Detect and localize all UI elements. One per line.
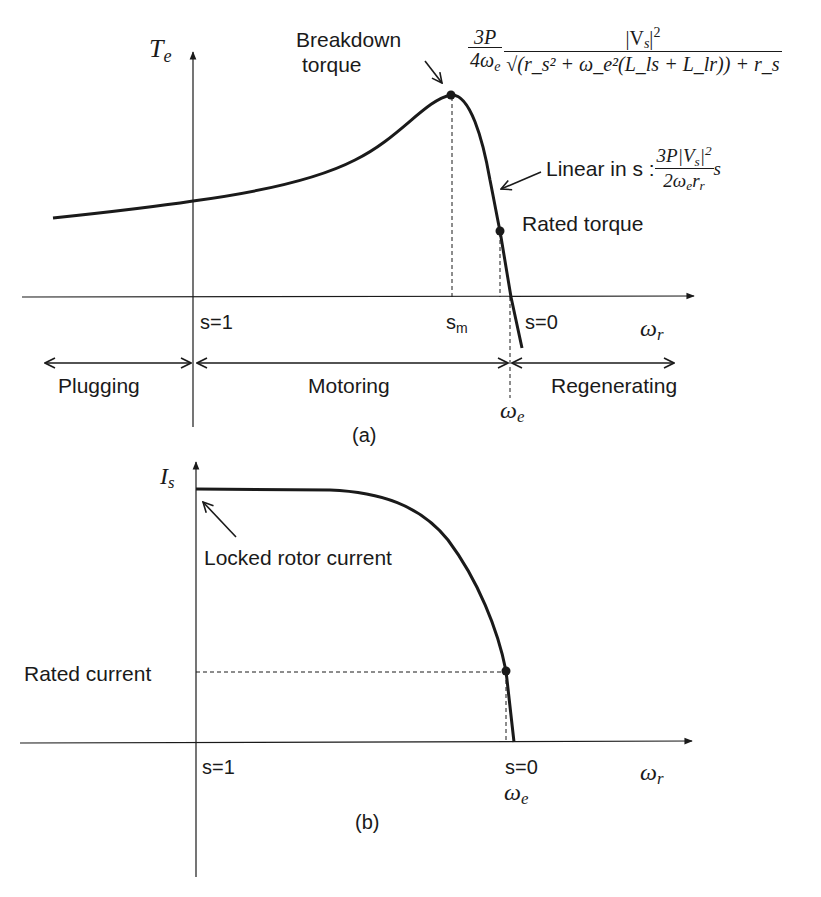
breakdown-coef-fraction: 3P 4ωe [468,27,502,74]
tick-s0-b: s=0 [505,757,538,777]
is-axis-label: Is [160,464,175,492]
caption-b: (b) [355,812,379,832]
rated-torque-point [496,227,505,236]
linear-in-s-label: Linear in s : 3P|Vs|2 2ωerr s [546,144,721,193]
coef-denominator: 4ωe [468,47,502,74]
omega-r-label-b: ωr [640,760,663,788]
rated-torque-label: Rated torque [522,213,643,234]
diagram-canvas [0,0,821,897]
linear-label-text: Linear in s : [546,157,655,180]
breakdown-formula: 3P 4ωe |Vs|2 √(r_s² + ω_e²(L_ls + L_lr))… [468,26,782,74]
linear-denominator: 2ωerr [655,168,714,193]
omega-r-sub: r [657,325,664,344]
omega-r-sub-b: r [657,769,664,788]
linear-den-tail-sub: r [700,178,705,193]
breakdown-torque-label: Breakdown torque [296,27,401,77]
linear-den-text: 2ω [663,170,686,191]
omega-e-symbol-b: ω [504,779,521,805]
region-regenerating: Regenerating [551,375,677,396]
tick-sm-text: s [446,311,456,333]
omega-e-label-a: ωe [500,398,524,426]
tick-sm: sm [446,312,468,335]
linear-factor: s [714,158,721,179]
main-num-sup: 2 [653,25,660,40]
linear-arrow [501,172,541,189]
a-x-axis [22,296,694,297]
te-axis-label: Te [149,36,172,65]
main-denominator: √(r_s² + ω_e²(L_ls + L_lr)) + r_s [504,51,781,74]
breakdown-point [447,91,456,100]
breakdown-line1: Breakdown [296,27,401,52]
coef-den-text: 4ω [470,49,494,71]
linear-fraction: 3P|Vs|2 2ωerr [655,144,714,193]
figure-a [22,52,694,427]
omega-e-symbol-a: ω [500,397,517,423]
current-speed-curve [196,489,514,742]
linear-den-tail: r [692,170,699,191]
is-symbol: I [160,463,168,489]
coef-numerator: 3P [468,27,502,47]
rated-current-point [502,667,511,676]
rated-current-label: Rated current [24,663,151,684]
locked-rotor-arrow [203,502,236,537]
breakdown-main-fraction: |Vs|2 √(r_s² + ω_e²(L_ls + L_lr)) + r_s [504,26,781,74]
breakdown-arrow [425,61,442,83]
omega-r-symbol-b: ω [640,759,657,785]
te-subscript: e [163,46,171,66]
omega-r-symbol: ω [640,315,657,341]
linear-numerator: 3P|Vs|2 [655,144,714,168]
b-x-axis [20,741,692,743]
coef-den-sub: e [494,58,500,73]
omega-e-sub-b: e [521,789,528,808]
main-num-text: |V [625,27,643,49]
main-numerator: |Vs|2 [504,26,781,51]
region-motoring: Motoring [308,375,390,396]
omega-e-sub-a: e [517,407,524,426]
breakdown-line2: torque [296,52,401,77]
te-symbol: T [149,34,163,63]
tick-sm-sub: m [456,320,468,336]
omega-r-label-a: ωr [640,316,663,344]
is-subscript: s [168,473,175,492]
tick-s0-a: s=0 [525,312,558,332]
linear-num-text: 3P|V [657,145,695,166]
linear-num-sup: 2 [705,143,712,158]
tick-s1-a: s=1 [200,312,233,332]
locked-rotor-current-label: Locked rotor current [204,547,392,568]
omega-e-label-b: ωe [504,780,528,808]
region-plugging: Plugging [58,375,140,396]
tick-s1-b: s=1 [202,757,235,777]
caption-a: (a) [352,425,376,445]
